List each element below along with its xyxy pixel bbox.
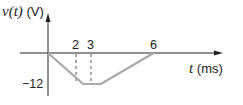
waveform-line [48, 53, 154, 84]
y-tick-minus-12: −12 [22, 78, 43, 91]
x-axis-var: t [189, 60, 193, 76]
x-tick-2: 2 [72, 39, 79, 52]
y-axis-unit: (V) [26, 4, 43, 19]
y-axis-arrow-icon [46, 13, 51, 22]
x-axis-label: t (ms) [189, 61, 223, 76]
y-axis-var: v(t) [2, 3, 23, 19]
x-tick-3: 3 [87, 39, 94, 52]
x-tick-6: 6 [150, 39, 157, 52]
x-axis-unit: (ms) [197, 61, 223, 76]
y-axis-label: v(t) (V) [2, 4, 44, 19]
x-axis-arrow-icon [214, 51, 223, 56]
